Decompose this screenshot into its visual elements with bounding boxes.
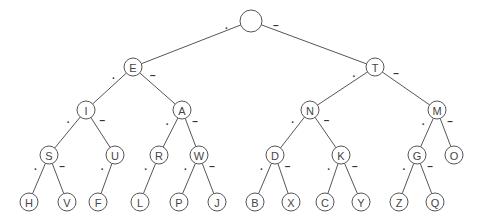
node-R: R (150, 146, 168, 164)
edge-T-M (382, 72, 429, 105)
node-S: S (40, 146, 58, 164)
node-label: F (95, 197, 102, 209)
node-label: K (337, 150, 345, 162)
node-label: P (175, 197, 182, 209)
dash-label: – (209, 161, 215, 172)
node-C: C (316, 193, 334, 211)
node-label: M (432, 105, 441, 117)
node-label: T (372, 62, 379, 74)
dot-label: . (327, 161, 330, 172)
edge-labels: .–.–.–.–.–.–.–.–...–.–.–.– (34, 20, 453, 172)
node-L: L (131, 193, 149, 211)
dash-label: – (447, 116, 453, 127)
dot-label: . (422, 116, 425, 127)
node-label: A (178, 105, 186, 117)
node-label: R (155, 150, 163, 162)
node-label: X (287, 197, 295, 209)
morse-tree-diagram: .–.–.–.–.–.–.–.–...–.–.–.– ETIANMSURWDKG… (0, 0, 484, 223)
dot-label: . (184, 161, 187, 172)
dot-label: . (67, 114, 70, 125)
node-label: U (111, 150, 119, 162)
dot-label: . (352, 68, 355, 79)
node-label: B (251, 197, 258, 209)
node-label: G (413, 150, 422, 162)
dot-label: . (403, 161, 406, 172)
dot-label: . (225, 20, 228, 31)
dash-label: – (99, 115, 105, 126)
dot-label: . (34, 161, 37, 172)
dash-label: – (352, 161, 358, 172)
node-label: D (271, 150, 279, 162)
node-F: F (89, 193, 107, 211)
node-label: Y (357, 197, 365, 209)
node-G: G (408, 146, 426, 164)
node-label: O (450, 150, 459, 162)
node-W: W (190, 146, 208, 164)
dash-label: – (285, 161, 291, 172)
node-Z: Z (390, 193, 408, 211)
node-K: K (332, 146, 350, 164)
node-label: C (321, 197, 329, 209)
node-N: N (301, 101, 319, 119)
dot-label: . (101, 161, 104, 172)
dot-label: . (144, 161, 147, 172)
node-label: Z (396, 197, 403, 209)
dot-label: . (112, 70, 115, 81)
dash-label: – (59, 161, 65, 172)
node-label: E (129, 62, 136, 74)
node-label: V (63, 197, 71, 209)
node-circle (240, 10, 262, 32)
dash-label: – (150, 70, 156, 81)
edge-T-N (318, 72, 368, 105)
dot-label: . (260, 161, 263, 172)
node-A: A (173, 101, 191, 119)
node-label: L (137, 197, 143, 209)
node-E: E (124, 58, 142, 76)
node-Y: Y (352, 193, 370, 211)
edge-E-I (93, 73, 127, 104)
node-M: M (428, 101, 446, 119)
node-label: S (45, 150, 52, 162)
node-label: H (25, 197, 33, 209)
node-D: D (266, 146, 284, 164)
dash-label: – (393, 68, 399, 79)
dash-label: – (324, 115, 330, 126)
node-P: P (170, 193, 188, 211)
node-label: Q (431, 197, 440, 209)
node-V: V (58, 193, 76, 211)
root-node (240, 10, 262, 32)
node-label: N (306, 105, 314, 117)
node-J: J (208, 193, 226, 211)
dot-label: . (291, 114, 294, 125)
node-I: I (77, 101, 95, 119)
node-label: J (214, 197, 220, 209)
node-B: B (246, 193, 264, 211)
node-U: U (106, 146, 124, 164)
node-T: T (366, 58, 384, 76)
node-Q: Q (426, 193, 444, 211)
dash-label: – (427, 161, 433, 172)
node-O: O (445, 146, 463, 164)
node-label: W (194, 150, 205, 162)
dot-label: . (166, 116, 169, 127)
dash-label: – (192, 116, 198, 127)
edge-E-A (140, 73, 175, 104)
node-label: I (84, 105, 87, 117)
dash-label: – (273, 20, 279, 31)
node-H: H (20, 193, 38, 211)
node-X: X (282, 193, 300, 211)
tree-nodes: ETIANMSURWDKGOHVFLPJBXCYZQ (20, 10, 463, 211)
